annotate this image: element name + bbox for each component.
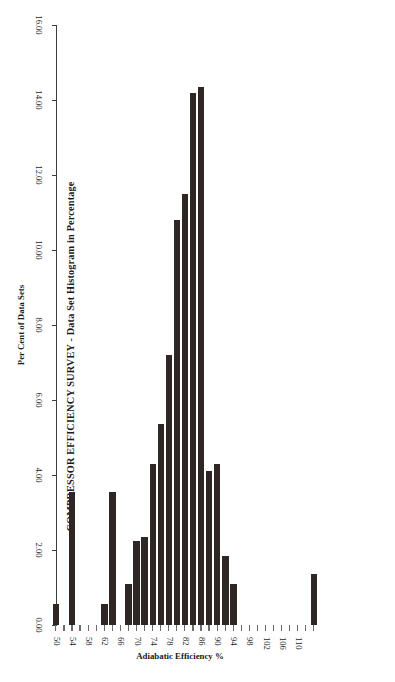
value-tick: [52, 550, 57, 551]
bar: [166, 355, 172, 625]
category-tick: [257, 625, 258, 631]
category-tick: [63, 625, 64, 631]
category-tick-label: 110: [294, 637, 304, 650]
category-tick-label: 102: [262, 637, 272, 650]
value-tick-label: 6.00: [34, 392, 44, 407]
category-tick: [80, 625, 81, 631]
category-tick-label: 94: [229, 637, 239, 646]
value-tick: [52, 175, 57, 176]
value-tick: [52, 250, 57, 251]
category-tick-label: 86: [197, 637, 207, 646]
category-tick: [160, 625, 161, 631]
value-axis-title: Per Cent of Data Sets: [16, 25, 26, 625]
bar: [311, 574, 317, 625]
bar: [174, 220, 180, 625]
histogram-plot: 0.002.004.006.008.0010.0012.0014.0016.00…: [56, 25, 314, 625]
category-tick: [168, 625, 169, 631]
category-tick: [233, 625, 234, 631]
category-tick: [249, 625, 250, 631]
category-tick-label: 58: [84, 637, 94, 646]
value-tick-label: 10.00: [34, 240, 44, 259]
value-tick: [52, 100, 57, 101]
category-tick: [152, 625, 153, 631]
category-tick: [192, 625, 193, 631]
bar: [198, 87, 204, 625]
category-tick-label: 62: [100, 637, 110, 646]
bar: [133, 541, 139, 625]
value-tick: [52, 325, 57, 326]
category-tick-label: 98: [246, 637, 256, 646]
category-tick: [265, 625, 266, 631]
category-tick: [96, 625, 97, 631]
bar: [214, 464, 220, 625]
bar: [69, 492, 75, 625]
bar: [101, 604, 107, 625]
bar: [206, 471, 212, 625]
value-tick: [52, 400, 57, 401]
value-tick-label: 0.00: [34, 617, 44, 632]
category-tick: [120, 625, 121, 631]
category-tick: [305, 625, 306, 631]
category-tick: [112, 625, 113, 631]
bar: [190, 93, 196, 626]
category-tick-label: 50: [52, 637, 62, 646]
bar: [141, 537, 147, 625]
bar: [109, 492, 115, 625]
category-tick: [88, 625, 89, 631]
category-tick-label: 106: [278, 637, 288, 650]
bar: [150, 464, 156, 625]
category-tick: [297, 625, 298, 631]
category-tick: [241, 625, 242, 631]
category-tick: [144, 625, 145, 631]
category-tick: [273, 625, 274, 631]
category-tick-label: 66: [117, 637, 127, 646]
bar: [53, 604, 59, 625]
category-tick-label: 70: [133, 637, 143, 646]
bar: [222, 556, 228, 625]
category-tick: [217, 625, 218, 631]
value-tick-label: 14.00: [34, 90, 44, 109]
category-tick: [313, 625, 314, 631]
category-tick: [225, 625, 226, 631]
category-tick-label: 54: [68, 637, 78, 646]
category-tick-label: 74: [149, 637, 159, 646]
category-tick: [281, 625, 282, 631]
bar: [158, 424, 164, 625]
category-tick: [209, 625, 210, 631]
category-tick: [71, 625, 72, 631]
value-tick: [52, 25, 57, 26]
category-axis-title: Adiabatic Efficiency %: [136, 651, 223, 661]
category-tick-label: 82: [181, 637, 191, 646]
category-tick: [176, 625, 177, 631]
bar: [125, 584, 131, 625]
category-tick: [289, 625, 290, 631]
category-tick-label: 78: [165, 637, 175, 646]
value-tick-label: 4.00: [34, 467, 44, 482]
category-tick: [200, 625, 201, 631]
bar: [230, 584, 236, 625]
value-tick-label: 12.00: [34, 165, 44, 184]
category-tick: [55, 625, 56, 631]
bar: [182, 194, 188, 625]
category-tick-label: 90: [213, 637, 223, 646]
category-tick: [184, 625, 185, 631]
category-tick: [128, 625, 129, 631]
category-tick: [136, 625, 137, 631]
value-tick-label: 16.00: [34, 15, 44, 34]
value-tick-label: 2.00: [34, 542, 44, 557]
value-tick-label: 8.00: [34, 317, 44, 332]
category-tick: [104, 625, 105, 631]
value-tick: [52, 475, 57, 476]
